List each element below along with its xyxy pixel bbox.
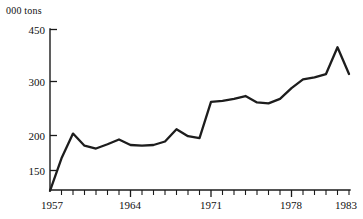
x-tick-label-1957: 1957 xyxy=(41,199,64,211)
y-tick-label-300: 300 xyxy=(29,76,46,88)
line-chart-plot: 450 300 200 150 xyxy=(0,0,363,219)
x-tick-label-1964: 1964 xyxy=(119,199,142,211)
y-tick-label-200: 200 xyxy=(29,130,46,142)
x-tick-label-1983: 1983 xyxy=(335,199,358,211)
y-tick-label-150: 150 xyxy=(29,165,46,177)
x-tick-label-1971: 1971 xyxy=(200,199,222,211)
chart-container: 000 tons 450 300 200 150 xyxy=(0,0,363,219)
x-tick-label-1978: 1978 xyxy=(280,199,303,211)
y-tick-label-450: 450 xyxy=(29,24,46,36)
x-minor-ticks xyxy=(62,190,350,197)
data-series-line xyxy=(50,47,349,191)
